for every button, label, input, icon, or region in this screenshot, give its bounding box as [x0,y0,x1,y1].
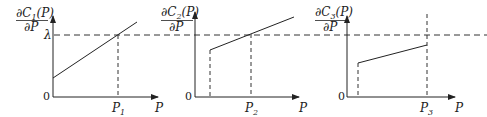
panel-2-ylabel-denominator: ∂P [169,20,184,34]
panel-2-cost-curve [210,17,294,50]
panel-3-origin: 0 [338,90,345,103]
panel-3-cost-curve [358,45,427,63]
panel-2: ∂C2(P) ∂P 0 P2 P [161,5,308,117]
panel-1-ylabel-denominator: ∂P [24,20,39,34]
panel-2-tick-label: P2 [244,101,258,117]
panel-3-ylabel-denominator: ∂P [323,20,338,34]
panel-1-tick-label: P1 [111,101,125,117]
panel-1-origin: 0 [43,90,50,103]
panel-1-x-label: P [154,101,164,115]
panel-3: ∂C3(P) ∂P 0 P3 P [315,5,464,117]
incremental-cost-diagram: ∂C1(P) ∂P λ 0 P1 P ∂C2(P) ∂P 0 P2 P ∂C3(… [0,0,487,117]
lambda-label: λ [43,28,52,42]
panel-2-x-label: P [298,101,308,115]
panel-3-tick-label: P3 [419,101,433,117]
panel-2-origin: 0 [185,90,192,103]
panel-1: ∂C1(P) ∂P λ 0 P1 P [16,6,164,117]
panel-3-x-label: P [454,101,464,115]
panel-1-cost-curve [53,22,137,78]
panel-2-ylabel-numerator: ∂C2(P) [161,5,199,21]
panel-3-ylabel-numerator: ∂C3(P) [315,5,353,21]
